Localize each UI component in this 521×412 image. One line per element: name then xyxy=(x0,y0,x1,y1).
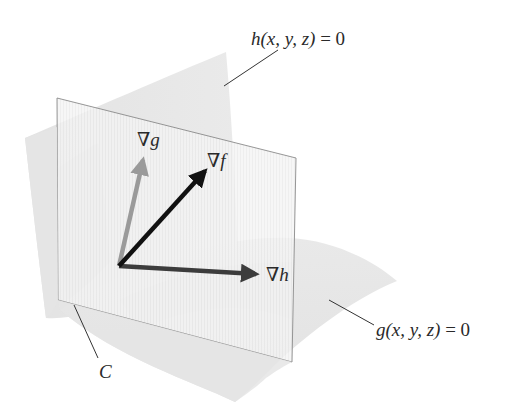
grad-g-label: ∇g xyxy=(137,129,160,150)
lagrange-diagram: h(x, y, z) = 0 g(x, y, z) = 0 C ∇g ∇f ∇h xyxy=(0,0,521,412)
h-surface-front xyxy=(25,127,58,318)
h-surface-leader xyxy=(224,50,278,86)
grad-f-label: ∇f xyxy=(207,150,228,171)
grad-h-label: ∇h xyxy=(266,264,289,285)
g-surface-label: g(x, y, z) = 0 xyxy=(376,319,470,341)
curve-c-label: C xyxy=(99,361,112,382)
h-surface-label: h(x, y, z) = 0 xyxy=(251,28,345,50)
